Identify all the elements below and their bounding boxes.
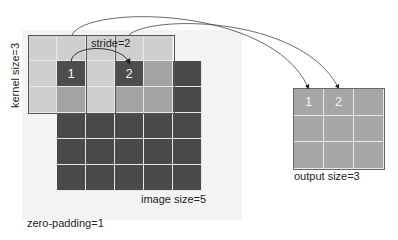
image-cell [57,113,86,139]
output-cell [294,142,324,169]
output-cell [324,116,354,143]
image-cell [144,139,173,165]
image-cell [115,139,144,165]
kernel-size-label: kernel size=3 [9,43,21,108]
output-cell [324,142,354,169]
overlap-cell [86,61,115,87]
image-cell [144,165,173,191]
overlap-cell [144,61,173,87]
output-cell-2: 2 [324,89,354,116]
image-cell [57,139,86,165]
image-cell [115,113,144,139]
output-cell [294,116,324,143]
output-cell [354,89,384,116]
output-cell [354,116,384,143]
image-cell [86,113,115,139]
image-cell [144,113,173,139]
image-cell [115,165,144,191]
image-cell [86,139,115,165]
padding-cell [28,61,57,87]
padding-cell [28,87,57,113]
image-cell [173,61,202,87]
image-cell [57,165,86,191]
padding-cell [28,35,57,61]
image-size-label: image size=5 [141,193,206,205]
output-grid: 1 2 [293,88,385,170]
image-cell [173,87,202,113]
kernel-center-cell-2: 2 [115,61,144,87]
zero-padding-label: zero-padding=1 [27,217,104,229]
image-cell [173,113,202,139]
image-cell [86,165,115,191]
padding-cell [144,35,173,61]
output-cell-1: 1 [294,89,324,116]
overlap-cell [86,87,115,113]
stride-label: stride=2 [91,37,130,49]
output-size-label: output size=3 [294,170,360,182]
output-cell [354,142,384,169]
image-cell [173,165,202,191]
kernel-center-cell-1: 1 [57,61,86,87]
overlap-cell [115,87,144,113]
image-cell [173,139,202,165]
padding-cell [57,35,86,61]
overlap-cell [144,87,173,113]
overlap-cell [57,87,86,113]
